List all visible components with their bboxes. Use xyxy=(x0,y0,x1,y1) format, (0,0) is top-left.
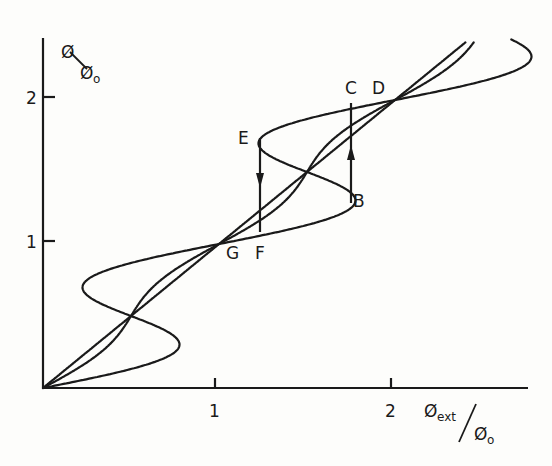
point-label-E: E xyxy=(238,128,249,148)
x-label-denominator-sub: o xyxy=(487,433,494,447)
x-label-numerator: Ø xyxy=(424,401,437,421)
point-label-B: B xyxy=(353,191,365,211)
tick-labels: 1 2 1 2 xyxy=(26,88,396,421)
arrow-down-icon xyxy=(256,173,264,188)
curves xyxy=(43,40,532,389)
y-axis-label: Ø Ø o xyxy=(61,42,100,86)
point-label-C: C xyxy=(345,78,357,98)
x-tick-label-1: 1 xyxy=(209,401,220,421)
axes xyxy=(43,38,528,388)
point-label-G: G xyxy=(226,243,239,263)
y-label-numerator: Ø xyxy=(61,42,74,62)
x-tick-label-2: 2 xyxy=(385,401,396,421)
x-label-denominator: Ø xyxy=(474,424,487,444)
y-label-denominator: Ø xyxy=(80,63,93,83)
point-label-F: F xyxy=(255,243,265,263)
linear-curve xyxy=(43,42,465,388)
flux-hysteresis-diagram: 1 2 1 2 Ø Ø o Ø ext Ø o G F E B C D xyxy=(0,0,552,466)
y-tick-label-2: 2 xyxy=(26,88,37,108)
y-label-denominator-sub: o xyxy=(93,72,100,86)
point-label-D: D xyxy=(372,78,385,98)
x-label-numerator-sub: ext xyxy=(437,410,456,424)
x-axis-label: Ø ext Ø o xyxy=(424,401,494,447)
y-tick-label-1: 1 xyxy=(26,232,37,252)
arrow-up-icon xyxy=(347,145,355,160)
